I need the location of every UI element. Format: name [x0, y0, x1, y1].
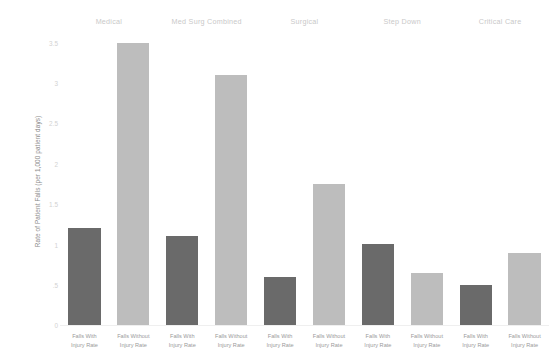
bar-slot: [109, 43, 158, 325]
x-label-med-surg-combined-without-injury: Falls WithoutInjury Rate: [207, 332, 256, 358]
group-header-step-down: Step Down: [353, 16, 451, 32]
x-label-line2: Injury Rate: [452, 341, 499, 350]
group-header-surgical: Surgical: [256, 16, 354, 32]
x-label-critical-care-with-injury: Falls WithInjury Rate: [451, 332, 500, 358]
y-tick-2-5: 2.5: [36, 120, 58, 127]
bar-slot: [305, 43, 354, 325]
x-label-line2: Injury Rate: [306, 341, 353, 350]
x-label-step-down-with-injury: Falls WithInjury Rate: [353, 332, 402, 358]
group-header-band: Medical Med Surg Combined Surgical Step …: [60, 16, 549, 32]
bar-slot: [158, 43, 207, 325]
bar-slot: [256, 43, 305, 325]
bar-chart: Medical Med Surg Combined Surgical Step …: [0, 0, 556, 363]
x-label-line2: Injury Rate: [61, 341, 108, 350]
bar-surgical-without-injury[interactable]: [313, 184, 345, 325]
y-tick-1-5: 1.5: [36, 201, 58, 208]
x-axis-baseline: [60, 325, 549, 326]
x-label-line1: Falls Without: [306, 332, 353, 341]
x-label-line1: Falls With: [159, 332, 206, 341]
bar-slot: [353, 43, 402, 325]
x-label-line2: Injury Rate: [354, 341, 401, 350]
bar-surgical-with-injury[interactable]: [264, 277, 296, 325]
x-label-line2: Injury Rate: [110, 341, 157, 350]
bar-medical-with-injury[interactable]: [68, 228, 100, 325]
x-label-medical-without-injury: Falls WithoutInjury Rate: [109, 332, 158, 358]
group-header-critical-care: Critical Care: [451, 16, 549, 32]
x-label-surgical-without-injury: Falls WithoutInjury Rate: [305, 332, 354, 358]
x-label-line1: Falls With: [452, 332, 499, 341]
x-label-surgical-with-injury: Falls WithInjury Rate: [256, 332, 305, 358]
bars-row: [60, 43, 549, 325]
y-tick-3: 3: [36, 80, 58, 87]
bar-step-down-with-injury[interactable]: [362, 244, 394, 325]
x-label-step-down-without-injury: Falls WithoutInjury Rate: [402, 332, 451, 358]
bar-critical-care-with-injury[interactable]: [460, 285, 492, 325]
x-label-line1: Falls With: [354, 332, 401, 341]
group-header-med-surg-combined: Med Surg Combined: [158, 16, 256, 32]
y-tick-1: 1: [36, 242, 58, 249]
bar-slot: [207, 43, 256, 325]
y-tick-0: 0: [36, 322, 58, 329]
group-header-medical: Medical: [60, 16, 158, 32]
x-label-line1: Falls Without: [403, 332, 450, 341]
plot-area: [60, 43, 549, 325]
y-tick-3-5: 3.5: [36, 40, 58, 47]
bar-med-surg-combined-with-injury[interactable]: [166, 236, 198, 325]
x-label-medical-with-injury: Falls WithInjury Rate: [60, 332, 109, 358]
x-label-critical-care-without-injury: Falls WithoutInjury Rate: [500, 332, 549, 358]
x-label-line2: Injury Rate: [159, 341, 206, 350]
x-label-line1: Falls Without: [501, 332, 548, 341]
bar-med-surg-combined-without-injury[interactable]: [215, 75, 247, 325]
x-label-line1: Falls With: [257, 332, 304, 341]
y-axis-tick-labels: 3.5 3 2.5 2 1.5 1 .5 0: [36, 0, 60, 363]
x-label-line2: Injury Rate: [501, 341, 548, 350]
x-label-line2: Injury Rate: [208, 341, 255, 350]
bar-step-down-without-injury[interactable]: [411, 273, 443, 325]
bar-slot: [451, 43, 500, 325]
bar-slot: [402, 43, 451, 325]
x-label-line2: Injury Rate: [403, 341, 450, 350]
x-label-line2: Injury Rate: [257, 341, 304, 350]
x-label-line1: Falls With: [61, 332, 108, 341]
x-label-med-surg-combined-with-injury: Falls WithInjury Rate: [158, 332, 207, 358]
y-tick-2: 2: [36, 161, 58, 168]
x-label-line1: Falls Without: [208, 332, 255, 341]
bar-medical-without-injury[interactable]: [117, 43, 149, 325]
bar-slot: [500, 43, 549, 325]
x-label-line1: Falls Without: [110, 332, 157, 341]
bar-slot: [60, 43, 109, 325]
x-axis-label-band: Falls WithInjury Rate Falls WithoutInjur…: [60, 332, 549, 358]
y-tick-0-5: .5: [36, 282, 58, 289]
bar-critical-care-without-injury[interactable]: [508, 253, 540, 326]
